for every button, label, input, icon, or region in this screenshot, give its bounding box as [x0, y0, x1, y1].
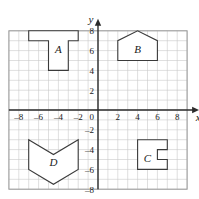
y-tick-label: 2	[90, 86, 95, 96]
origin-label: 0	[90, 112, 95, 122]
x-tick-label: –8	[13, 112, 24, 122]
x-tick-label: 6	[155, 112, 160, 122]
y-tick-label: –8	[84, 185, 95, 195]
y-tick-label: 4	[90, 66, 95, 76]
y-tick-label: 8	[90, 26, 95, 36]
polygon-label-a: A	[54, 43, 62, 55]
x-tick-label: –2	[73, 112, 83, 122]
y-axis-label: y	[88, 13, 94, 25]
x-axis-label: x	[195, 111, 199, 123]
x-tick-label: –6	[33, 112, 44, 122]
x-tick-label: –4	[53, 112, 64, 122]
y-tick-label: 6	[90, 46, 95, 56]
polygon-label-c: C	[144, 152, 152, 164]
x-tick-label: 2	[116, 112, 121, 122]
x-tick-label: 8	[175, 112, 180, 122]
x-tick-label: 4	[135, 112, 140, 122]
y-tick-label: –2	[84, 125, 94, 135]
coordinate-plane-svg: –8–6–4–22468 8642–2–4–6–8 0 x y ABCD	[0, 0, 199, 199]
polygon-label-b: B	[134, 43, 141, 55]
y-tick-label: –6	[84, 165, 95, 175]
polygon-label-d: D	[48, 156, 57, 168]
y-tick-label: –4	[84, 145, 95, 155]
coordinate-plane-figure: –8–6–4–22468 8642–2–4–6–8 0 x y ABCD	[0, 0, 199, 199]
